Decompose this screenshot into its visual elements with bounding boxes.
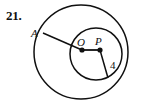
point-p-dot [97,47,102,52]
label-point-a: A [30,27,38,39]
label-point-p: P [94,35,102,47]
segment-p-to-circle-edge [100,50,108,78]
label-center-o: O [77,36,85,48]
label-length-4: 4 [110,59,116,71]
point-o-dot [79,47,84,52]
figure-page: 21. A O P 4 [0,0,152,104]
geometry-figure: A O P 4 [0,0,152,104]
